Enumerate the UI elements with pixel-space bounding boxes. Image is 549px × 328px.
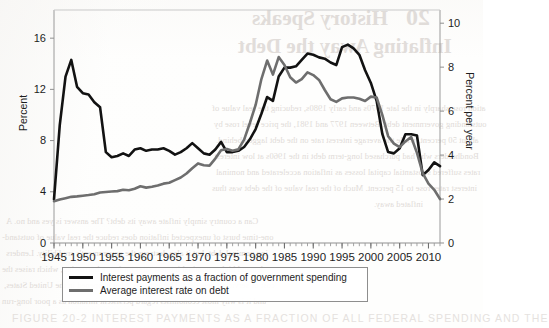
x-tick-label: 2000 [358,251,384,263]
left-tick-label: 8 [40,134,46,146]
legend-label-average-rate: Average interest rate on debt [100,285,229,297]
x-tick-label: 1980 [243,251,269,263]
legend-swatch-interest-payments [69,276,93,279]
x-tick-label: 1945 [41,251,67,263]
right-tick-label: 2 [448,193,454,205]
left-axis-title: Percent [17,83,29,143]
x-tick-label: 1970 [185,251,211,263]
x-tick-label: 2010 [416,251,442,263]
x-tick-label: 1960 [128,251,154,263]
right-tick-label: 10 [448,17,460,29]
right-axis-ticks: 0246810 [440,17,460,249]
right-axis-title: Percent per year [464,66,476,156]
data-series-group [54,45,440,202]
x-tick-label: 1995 [329,251,355,263]
right-tick-label: 6 [448,105,454,117]
left-tick-label: 0 [40,237,46,249]
legend-label-interest-payments: Interest payments as a fraction of gover… [100,272,347,284]
left-tick-label: 16 [34,32,46,44]
legend-item-average-rate: Average interest rate on debt [69,284,361,297]
legend-swatch-average-rate [69,289,93,292]
x-tick-label: 1985 [272,251,298,263]
x-tick-label: 2005 [387,251,413,263]
x-tick-label: 1955 [99,251,125,263]
right-tick-label: 8 [448,61,454,73]
x-tick-label: 1975 [214,251,240,263]
right-tick-label: 0 [448,237,454,249]
left-tick-label: 12 [34,83,46,95]
left-tick-label: 4 [40,185,46,197]
legend-item-interest-payments: Interest payments as a fraction of gover… [69,271,361,284]
x-tick-label: 1950 [70,251,96,263]
chart-legend: Interest payments as a fraction of gover… [62,267,368,302]
series-line-0 [54,45,440,200]
left-axis-ticks: 0481216 [34,32,54,249]
x-axis-major-ticks [54,243,428,249]
x-tick-label: 1990 [300,251,326,263]
x-axis-tick-labels: 1945195019551960196519701975198019851990… [41,251,441,263]
right-tick-label: 4 [448,149,454,161]
x-tick-label: 1965 [156,251,182,263]
